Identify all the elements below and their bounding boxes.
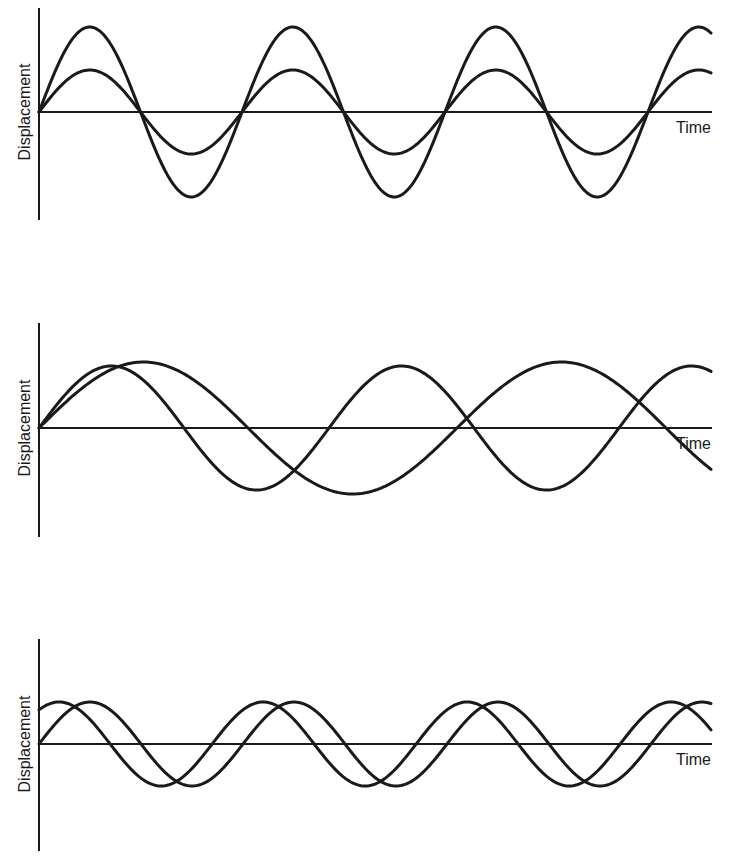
panel-phase: Displacement Time: [16, 639, 712, 851]
panel-amplitude: Displacement Time: [16, 8, 712, 220]
waveform-figure: Displacement Time Displacement Time Disp…: [0, 0, 729, 864]
y-axis-label: Displacement: [16, 379, 33, 476]
x-axis-label: Time: [676, 751, 711, 768]
x-axis-label: Time: [676, 119, 711, 136]
y-axis-label: Displacement: [16, 695, 33, 792]
panel-frequency: Displacement Time: [16, 323, 712, 537]
y-axis-label: Displacement: [16, 63, 33, 160]
